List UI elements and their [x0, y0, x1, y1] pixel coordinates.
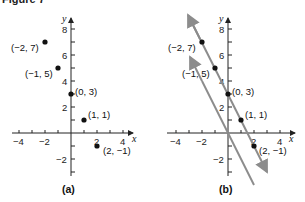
y-tick-label: 8	[62, 24, 67, 35]
data-point	[251, 143, 256, 148]
point-label: (1, 1)	[245, 109, 267, 120]
point-label: (2, −1)	[103, 145, 131, 156]
data-point	[225, 91, 230, 96]
point-label: (1, 1)	[88, 109, 110, 120]
data-point	[81, 117, 86, 122]
data-point	[68, 91, 73, 96]
x-axis-label: x	[131, 133, 137, 144]
x-tick-label: −4	[170, 136, 181, 147]
data-point	[199, 39, 204, 44]
figure-canvas: −4 −2 2 4 x 8 6 4 2 −2 y (−2, 7) (−1, 5)…	[0, 0, 305, 202]
chart-caption: (a)	[62, 183, 75, 195]
y-axis-label: y	[218, 13, 224, 24]
data-point	[55, 65, 60, 70]
y-axis-label: y	[61, 13, 67, 24]
y-tick-label: 6	[62, 50, 67, 61]
data-point	[94, 143, 99, 148]
data-point	[238, 117, 243, 122]
data-point	[212, 65, 217, 70]
point-label: (−1, 5)	[182, 68, 210, 79]
fitted-line-upper	[190, 22, 208, 93]
x-tick-label: −2	[196, 136, 207, 147]
point-label: (−1, 5)	[25, 68, 53, 79]
point-label: (0, 3)	[75, 86, 97, 97]
data-point	[42, 39, 47, 44]
chart-caption: (b)	[219, 183, 232, 195]
x-tick-label: −4	[13, 136, 24, 147]
y-tick-label: 2	[62, 102, 67, 113]
y-tick-label: 2	[219, 102, 224, 113]
chart-a: −4 −2 2 4 x 8 6 4 2 −2 y (−2, 7) (−1, 5)…	[11, 13, 137, 195]
y-tick-label: −2	[56, 154, 67, 165]
point-label: (2, −1)	[259, 145, 287, 156]
y-tick-label: −2	[213, 154, 224, 165]
y-tick-label: 4	[62, 76, 67, 87]
y-ticks	[71, 29, 75, 172]
y-tick-label: 6	[219, 50, 224, 61]
x-tick-label: −2	[39, 136, 50, 147]
line-arrow-top	[188, 15, 200, 39]
point-label: (−2, 7)	[11, 42, 39, 53]
x-axis-label: x	[288, 133, 294, 144]
point-label: (−2, 7)	[168, 42, 196, 53]
chart-b: −4 −2 2 4 x 8 6 4 2 −2 y (−2, 7) (−1, 5)…	[167, 13, 295, 195]
point-label: (0, 3)	[232, 86, 254, 97]
y-tick-label: 8	[219, 24, 224, 35]
